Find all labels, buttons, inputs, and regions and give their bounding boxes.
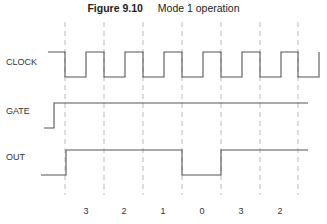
clock-waveform bbox=[48, 52, 319, 77]
count-label: 3 bbox=[231, 206, 251, 216]
out-waveform bbox=[41, 150, 308, 175]
count-label: 2 bbox=[114, 206, 134, 216]
count-label: 0 bbox=[192, 206, 212, 216]
count-label: 3 bbox=[76, 206, 96, 216]
count-label: 1 bbox=[153, 206, 173, 216]
timing-diagram bbox=[0, 0, 327, 224]
gate-waveform bbox=[44, 103, 308, 128]
count-label: 2 bbox=[270, 206, 290, 216]
